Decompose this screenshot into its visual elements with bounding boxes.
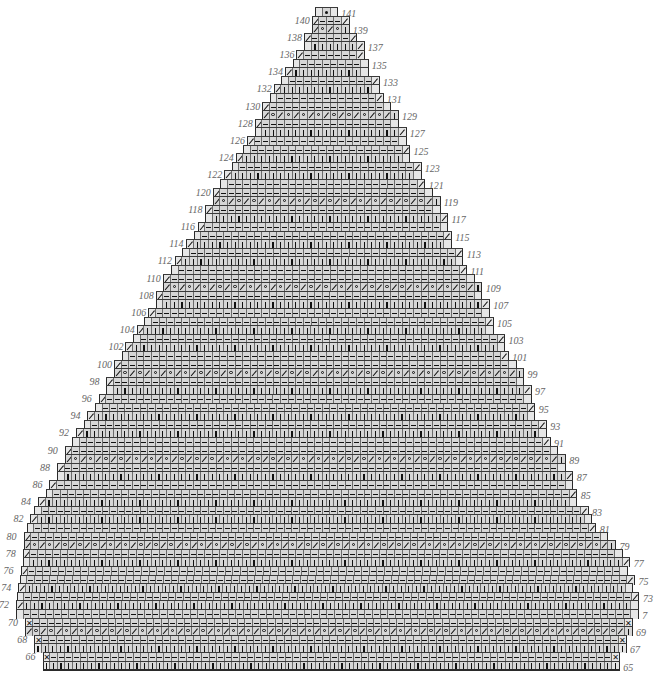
row-number-123: 123 [425, 164, 440, 174]
row-number-107: 107 [493, 301, 508, 311]
row-number-67: 67 [630, 645, 640, 655]
row-number-127: 127 [410, 129, 425, 139]
row-number-109: 109 [486, 284, 501, 294]
row-number-80: 80 [7, 532, 17, 542]
row-number-88: 88 [40, 463, 50, 473]
chart-bottom-border [43, 669, 621, 671]
row-number-125: 125 [413, 147, 428, 157]
row-number-129: 129 [402, 112, 417, 122]
row-number-97: 97 [535, 387, 545, 397]
row-number-130: 130 [245, 102, 260, 112]
row-number-65: 65 [623, 663, 633, 673]
row-number-113: 113 [467, 250, 481, 260]
row-number-66: 66 [26, 652, 36, 662]
knitting-chart: 1411401391381371361351341331321311301291… [0, 0, 655, 679]
row-number-85: 85 [581, 491, 591, 501]
row-number-68: 68 [17, 635, 27, 645]
row-number-117: 117 [451, 215, 465, 225]
row-number-94: 94 [70, 411, 80, 421]
row-number-73: 73 [643, 594, 653, 604]
row-number-89: 89 [569, 456, 579, 466]
row-number-120: 120 [196, 188, 211, 198]
knit-symbol [619, 644, 627, 653]
row-number-112: 112 [158, 256, 172, 266]
row-number-100: 100 [97, 360, 112, 370]
row-number-115: 115 [455, 233, 469, 243]
row-number-135: 135 [372, 61, 387, 71]
row-number-69: 69 [636, 628, 646, 638]
row-number-99: 99 [527, 370, 537, 380]
row-number-128: 128 [238, 119, 253, 129]
row-number-84: 84 [21, 497, 31, 507]
row-number-75: 75 [638, 577, 648, 587]
row-number-71: 7 [642, 611, 647, 621]
row-number-70: 70 [8, 618, 18, 628]
row-number-140: 140 [295, 16, 310, 26]
row-number-133: 133 [383, 78, 398, 88]
row-number-96: 96 [82, 394, 92, 404]
row-number-72: 72 [0, 600, 9, 610]
row-number-87: 87 [577, 473, 587, 483]
row-number-138: 138 [287, 33, 302, 43]
row-number-110: 110 [146, 274, 160, 284]
row-number-119: 119 [444, 198, 458, 208]
row-number-78: 78 [6, 549, 16, 559]
row-number-116: 116 [181, 222, 195, 232]
row-number-95: 95 [539, 405, 549, 415]
row-number-77: 77 [634, 559, 644, 569]
row-number-86: 86 [32, 480, 42, 490]
row-number-83: 83 [592, 508, 602, 518]
row-number-118: 118 [188, 205, 202, 215]
row-number-90: 90 [48, 446, 58, 456]
row-number-108: 108 [139, 291, 154, 301]
row-number-103: 103 [508, 336, 523, 346]
row-number-74: 74 [1, 583, 11, 593]
row-number-92: 92 [59, 428, 69, 438]
row-number-105: 105 [497, 319, 512, 329]
row-number-137: 137 [368, 43, 383, 53]
row-number-98: 98 [89, 377, 99, 387]
row-number-93: 93 [550, 422, 560, 432]
row-number-114: 114 [169, 239, 183, 249]
row-number-82: 82 [13, 514, 23, 524]
row-number-76: 76 [4, 566, 14, 576]
